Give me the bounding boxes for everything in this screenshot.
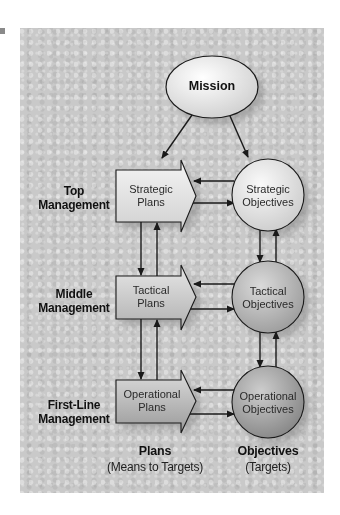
- plans-column-subtitle: (Means to Targets): [100, 460, 210, 474]
- objective-label-line: Strategic: [232, 183, 304, 196]
- arrow-mission-to-strategic-objectives: [230, 116, 248, 157]
- plan-label-line: Strategic: [116, 183, 186, 196]
- management-label-line: Top: [34, 184, 114, 198]
- objective-label-line: Operational: [232, 390, 304, 403]
- plan-label-line: Plans: [116, 196, 186, 209]
- plans-column-footer: Plans (Means to Targets): [100, 444, 210, 474]
- management-label-middle: Middle Management: [34, 287, 114, 315]
- strategic-objectives-label: Strategic Objectives: [232, 183, 304, 209]
- objectives-column-title: Objectives: [220, 444, 316, 458]
- mission-label: Mission: [166, 80, 258, 93]
- strategic-plans-label: Strategic Plans: [116, 183, 186, 209]
- objective-label-line: Objectives: [232, 403, 304, 416]
- objective-label-line: Objectives: [232, 196, 304, 209]
- management-label-line: Management: [34, 198, 114, 212]
- tactical-plans-label: Tactical Plans: [116, 284, 186, 310]
- plan-label-line: Plans: [116, 401, 188, 414]
- arrow-mission-to-strategic-plans: [162, 115, 192, 158]
- objectives-column-footer: Objectives (Targets): [220, 444, 316, 474]
- plan-label-line: Plans: [116, 297, 186, 310]
- plans-column-title: Plans: [100, 444, 210, 458]
- objectives-column-subtitle: (Targets): [220, 460, 316, 474]
- objective-label-line: Tactical: [232, 285, 304, 298]
- management-label-line: Middle: [34, 287, 114, 301]
- management-label-line: First-Line: [34, 398, 114, 412]
- planning-diagram: [0, 0, 340, 515]
- objective-label-line: Objectives: [232, 298, 304, 311]
- tactical-objectives-label: Tactical Objectives: [232, 285, 304, 311]
- management-label-first-line: First-Line Management: [34, 398, 114, 426]
- plan-label-line: Tactical: [116, 284, 186, 297]
- operational-objectives-label: Operational Objectives: [232, 390, 304, 416]
- management-label-line: Management: [34, 301, 114, 315]
- operational-plans-label: Operational Plans: [116, 388, 188, 414]
- management-label-top: Top Management: [34, 184, 114, 212]
- management-label-line: Management: [34, 412, 114, 426]
- plan-label-line: Operational: [116, 388, 188, 401]
